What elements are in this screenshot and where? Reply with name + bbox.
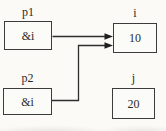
box-value-p1: &i [22,30,35,42]
box-label-i: i [113,6,157,20]
box-p1: &i [4,21,52,50]
box-label-p2: p2 [3,71,52,85]
box-value-j: 20 [128,98,140,110]
box-p2: &i [3,88,52,115]
box-label-j: j [112,71,155,85]
arrowhead-p1-icon [105,33,114,40]
arrow-p2-to-i [52,46,106,101]
pointer-diagram: p1 &i i 10 p2 &i j 20 [0,0,166,131]
box-value-p2: &i [21,96,34,108]
box-label-p1: p1 [4,5,52,19]
box-value-i: 10 [129,32,141,44]
box-j: 20 [112,88,155,119]
box-i: 10 [113,23,157,53]
arrowhead-p2-icon [105,42,114,49]
